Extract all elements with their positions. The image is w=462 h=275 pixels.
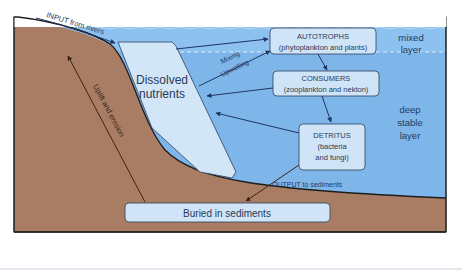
mixed-layer-region	[60, 27, 446, 52]
buried-label: Buried in sediments	[183, 208, 271, 219]
page-divider	[0, 268, 462, 270]
detritus-subtitle-2: and fungi)	[315, 153, 349, 162]
autotrophs-title: AUTOTROPHS	[297, 32, 349, 41]
deep-layer-label-3: layer	[400, 130, 421, 141]
detritus-title: DETRITUS	[313, 131, 351, 140]
nutrients-label-1: Dissolved	[136, 73, 188, 87]
mixed-layer-label-1: mixed	[398, 32, 423, 43]
detritus-subtitle-1: (bacteria	[317, 142, 347, 151]
consumers-title: CONSUMERS	[302, 74, 351, 83]
mixed-layer-label-2: layer	[401, 44, 422, 55]
deep-layer-label-2: stable	[397, 117, 422, 128]
nutrients-label-2: nutrients	[139, 87, 185, 101]
deep-layer-label-1: deep	[399, 104, 420, 115]
autotrophs-subtitle: (phytoplankton and plants)	[279, 43, 368, 52]
consumers-subtitle: (zooplankton and nekton)	[284, 85, 369, 94]
nutrient-cycle-diagram: Dissolved nutrients AUTOTROPHS (phytopla…	[0, 0, 462, 275]
output-label: OUTPUT to sediments	[272, 181, 343, 188]
